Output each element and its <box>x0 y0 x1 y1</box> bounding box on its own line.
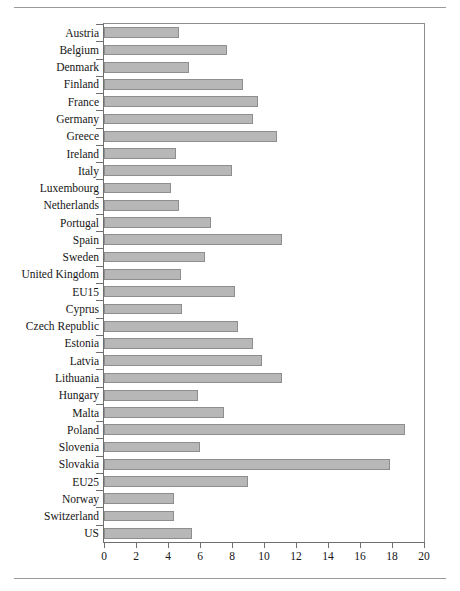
bar-germany <box>104 114 253 125</box>
y-axis-label-denmark: Denmark <box>3 61 99 73</box>
y-axis-label-italy: Italy <box>3 165 99 177</box>
bar-row <box>104 511 424 522</box>
bar-row <box>104 165 424 176</box>
bar-slovakia <box>104 459 390 470</box>
x-tick <box>360 542 361 548</box>
y-axis-label-estonia: Estonia <box>3 337 99 349</box>
bar-eu25 <box>104 476 248 487</box>
x-tick-label: 6 <box>185 550 215 563</box>
y-axis-label-united-kingdom: United Kingdom <box>3 268 99 280</box>
bar-row <box>104 355 424 366</box>
y-axis-label-portugal: Portugal <box>3 217 99 229</box>
y-axis-label-austria: Austria <box>3 27 99 39</box>
bar-poland <box>104 424 405 435</box>
y-axis-label-cyprus: Cyprus <box>3 303 99 315</box>
bar-row <box>104 148 424 159</box>
x-tick-label: 14 <box>313 550 343 563</box>
bar-row <box>104 424 424 435</box>
y-axis-label-slovenia: Slovenia <box>3 441 99 453</box>
bar-row <box>104 338 424 349</box>
x-tick-label: 8 <box>217 550 247 563</box>
top-horizontal-rule <box>14 7 446 8</box>
bar-row <box>104 528 424 539</box>
bar-eu15 <box>104 286 235 297</box>
bar-row <box>104 407 424 418</box>
x-tick-label: 20 <box>409 550 439 563</box>
bar-united-kingdom <box>104 269 181 280</box>
bar-spain <box>104 234 282 245</box>
y-axis-label-sweden: Sweden <box>3 251 99 263</box>
y-axis-label-eu15: EU15 <box>3 286 99 298</box>
x-tick <box>424 542 425 548</box>
y-axis-label-france: France <box>3 96 99 108</box>
bar-hungary <box>104 390 198 401</box>
bar-norway <box>104 493 174 504</box>
bar-denmark <box>104 62 189 73</box>
x-tick-label: 4 <box>153 550 183 563</box>
bar-malta <box>104 407 224 418</box>
bar-czech-republic <box>104 321 238 332</box>
y-axis-label-norway: Norway <box>3 493 99 505</box>
bottom-horizontal-rule <box>14 578 446 579</box>
y-axis-label-luxembourg: Luxembourg <box>3 182 99 194</box>
y-axis-label-belgium: Belgium <box>3 44 99 56</box>
x-tick-label: 12 <box>281 550 311 563</box>
bar-row <box>104 321 424 332</box>
x-tick <box>104 542 105 548</box>
bar-lithuania <box>104 373 282 384</box>
y-axis-label-germany: Germany <box>3 113 99 125</box>
bar-switzerland <box>104 511 174 522</box>
y-axis-label-latvia: Latvia <box>3 355 99 367</box>
y-axis-label-greece: Greece <box>3 130 99 142</box>
x-tick-label: 16 <box>345 550 375 563</box>
bar-netherlands <box>104 200 179 211</box>
bar-row <box>104 476 424 487</box>
y-axis-category-labels: AustriaBelgiumDenmarkFinlandFranceGerman… <box>0 24 99 542</box>
bar-row <box>104 234 424 245</box>
bar-series <box>104 24 424 542</box>
y-axis-label-czech-republic: Czech Republic <box>3 320 99 332</box>
bar-row <box>104 493 424 504</box>
bar-ireland <box>104 148 176 159</box>
bar-row <box>104 269 424 280</box>
bar-row <box>104 200 424 211</box>
x-tick-label: 10 <box>249 550 279 563</box>
x-tick-label: 2 <box>121 550 151 563</box>
y-axis-label-slovakia: Slovakia <box>3 458 99 470</box>
bar-row <box>104 96 424 107</box>
bar-row <box>104 79 424 90</box>
bar-row <box>104 459 424 470</box>
bar-luxembourg <box>104 183 171 194</box>
x-tick <box>392 542 393 548</box>
x-tick <box>296 542 297 548</box>
x-tick <box>168 542 169 548</box>
bar-france <box>104 96 258 107</box>
bar-row <box>104 114 424 125</box>
x-axis: 02468101214161820 <box>104 542 424 572</box>
bar-row <box>104 286 424 297</box>
y-axis-label-hungary: Hungary <box>3 389 99 401</box>
y-axis-label-us: US <box>3 527 99 539</box>
bar-row <box>104 27 424 38</box>
y-axis-label-finland: Finland <box>3 78 99 90</box>
bar-row <box>104 131 424 142</box>
x-tick <box>232 542 233 548</box>
bar-row <box>104 442 424 453</box>
bar-row <box>104 217 424 228</box>
y-axis-label-poland: Poland <box>3 424 99 436</box>
x-tick <box>328 542 329 548</box>
bar-belgium <box>104 45 227 56</box>
bar-estonia <box>104 338 253 349</box>
bar-cyprus <box>104 304 182 315</box>
x-tick-label: 18 <box>377 550 407 563</box>
bar-row <box>104 45 424 56</box>
y-axis-label-eu25: EU25 <box>3 476 99 488</box>
bar-row <box>104 183 424 194</box>
bar-italy <box>104 165 232 176</box>
bar-row <box>104 252 424 263</box>
y-axis-label-lithuania: Lithuania <box>3 372 99 384</box>
x-tick <box>136 542 137 548</box>
y-axis-label-spain: Spain <box>3 234 99 246</box>
x-tick <box>200 542 201 548</box>
bar-slovenia <box>104 442 200 453</box>
